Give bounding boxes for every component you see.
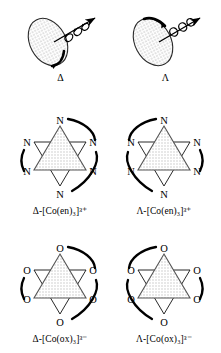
donor-label: N (89, 137, 97, 148)
upper-triangle (34, 254, 86, 298)
donor-label: O (160, 243, 168, 254)
caption-ox-delta: Δ-[Co(ox)₃]³⁻ (6, 334, 114, 345)
helix-panel-delta: Δ (8, 4, 113, 94)
helix-panel-lambda: Λ (113, 4, 218, 94)
donor-label: O (160, 317, 168, 328)
helix-delta-symbol: Δ (8, 72, 113, 83)
star-ox-lambda-svg: O O O O O O (110, 240, 218, 336)
star-en-delta-svg: N N N N N N (6, 112, 114, 208)
chelate-bridge (21, 278, 24, 299)
helix-lambda-symbol: Λ (113, 72, 218, 83)
donor-label: N (193, 137, 201, 148)
star-panel-ox-lambda: O O O O O O Λ-[Co(ox)₃]³⁻ (110, 240, 218, 352)
upper-triangle (138, 126, 190, 170)
chelate-bridge (21, 150, 24, 171)
star-ox-delta-svg: O O O O O O (6, 240, 114, 336)
donor-label: N (56, 189, 64, 200)
donor-label: N (160, 115, 168, 126)
donor-label: O (23, 265, 31, 276)
star-panel-en-lambda: N N N N N N Λ-[Co(en)₃]³⁺ (110, 112, 218, 224)
caption-en-lambda: Λ-[Co(en)₃]³⁺ (110, 206, 218, 217)
star-en-lambda-svg: N N N N N N (110, 112, 218, 208)
upper-triangle (34, 126, 86, 170)
chelate-bridge (200, 150, 203, 171)
chirality-figure: Δ (0, 0, 221, 353)
star-panel-en-delta: N N N N N N Δ-[Co(en)₃]³⁺ (6, 112, 114, 224)
donor-label: O (56, 317, 64, 328)
donor-label: N (56, 115, 64, 126)
upper-triangle (138, 254, 190, 298)
donor-label: O (193, 265, 201, 276)
donor-label: N (23, 137, 31, 148)
donor-label: N (160, 189, 168, 200)
helix-coil-delta (65, 23, 89, 41)
shaded-disc (125, 11, 180, 72)
caption-en-delta: Δ-[Co(en)₃]³⁺ (6, 206, 114, 217)
donor-label: O (89, 265, 97, 276)
chelate-bridge (200, 278, 203, 299)
caption-ox-lambda: Λ-[Co(ox)₃]³⁻ (110, 334, 218, 345)
donor-label: O (56, 243, 64, 254)
star-panel-ox-delta: O O O O O O Δ-[Co(ox)₃]³⁻ (6, 240, 114, 352)
